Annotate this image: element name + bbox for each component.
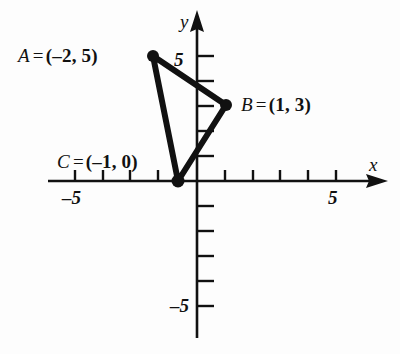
point-label-c: C=(–1, 0) [57,152,138,171]
point-label-a: A=(–2, 5) [18,46,98,65]
point-label-b-name: B [241,94,254,115]
y-axis-arrowhead [190,10,204,32]
point-label-c-equals: = [71,151,86,172]
point-label-b-coords: (1, 3) [269,94,311,115]
point-label-c-name: C [57,151,71,172]
point-label-a-coords: (–2, 5) [46,45,98,66]
point-label-a-name: A [18,45,31,66]
point-label-a-equals: = [31,45,46,66]
point-label-c-coords: (–1, 0) [86,151,138,172]
triangle-abc [147,50,232,188]
triangle-edges [153,56,226,181]
x-tick-label-neg5: –5 [62,188,81,207]
x-tick-label-5: 5 [328,188,338,207]
figure-canvas: A=(–2, 5) B=(1, 3) C=(–1, 0) y x 5 –5 –5… [0,0,400,354]
point-marker-c [172,175,185,188]
y-axis-label: y [180,12,188,31]
y-tick-label-5: 5 [174,50,184,69]
x-axis-arrowhead [366,174,388,188]
point-marker-b [220,99,232,111]
x-axis-label: x [369,155,377,174]
point-marker-a [147,50,159,62]
y-tick-label-neg5: –5 [170,296,189,315]
point-label-b: B=(1, 3) [241,95,311,114]
point-label-b-equals: = [254,94,269,115]
